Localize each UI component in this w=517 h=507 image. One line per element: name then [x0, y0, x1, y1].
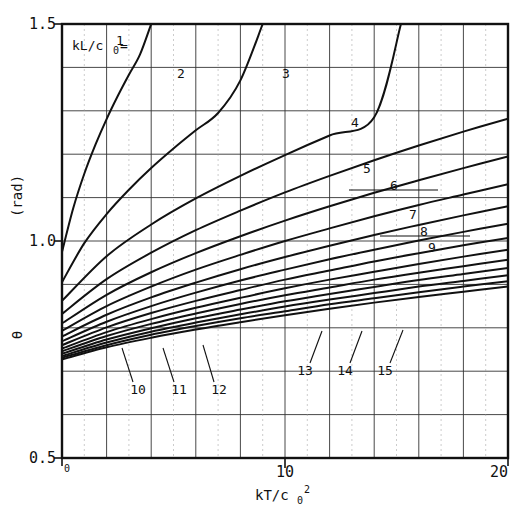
xtick-label-left: 0	[64, 463, 70, 474]
curve-label-14: 14	[337, 363, 353, 378]
curve-label-10: 10	[130, 382, 146, 397]
annotation-base: kL/c	[72, 38, 103, 53]
y-axis-title: θ	[9, 331, 25, 339]
curve-label-11: 11	[171, 382, 187, 397]
ytick-label-mid: 1.0	[29, 232, 56, 250]
x-axis-title-superscript: 2	[304, 484, 310, 495]
curve-label-2: 2	[177, 66, 185, 81]
curve-label-13: 13	[297, 363, 313, 378]
curve-label-15: 15	[377, 363, 393, 378]
chart-figure: 1.5 1.0 0.5 0 10 20 (rad) θ kT/c 0 2 kL/…	[0, 0, 517, 507]
curve-label-1: 1	[116, 33, 124, 48]
curve-label-6: 6	[390, 178, 398, 193]
xtick-label-right: 20	[490, 463, 508, 481]
x-axis-title-base: kT/c	[255, 487, 289, 503]
curve-label-3: 3	[282, 66, 290, 81]
curve-label-4: 4	[351, 115, 359, 130]
curve-label-7: 7	[409, 207, 417, 222]
ytick-label-top: 1.5	[29, 15, 56, 33]
curve-label-12: 12	[211, 382, 227, 397]
ytick-label-bottom: 0.5	[29, 449, 56, 467]
xtick-label-mid: 10	[276, 463, 294, 481]
curve-label-5: 5	[363, 161, 371, 176]
theta-vs-kt-chart: 1.5 1.0 0.5 0 10 20 (rad) θ kT/c 0 2 kL/…	[0, 0, 517, 507]
curve-label-9: 9	[428, 240, 436, 255]
curve-label-8: 8	[420, 224, 428, 239]
x-axis-title-subscript: 0	[297, 495, 303, 506]
y-axis-unit-label: (rad)	[9, 175, 25, 217]
